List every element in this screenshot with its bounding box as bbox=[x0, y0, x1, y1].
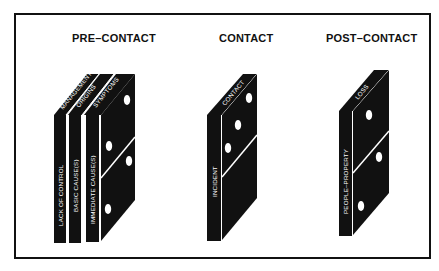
label-basic-causes: BASIC CAUSE(S) bbox=[72, 159, 79, 212]
label-lack-of-control: LACK OF CONTROL bbox=[57, 164, 64, 226]
pip bbox=[358, 201, 364, 211]
pip bbox=[376, 152, 382, 162]
pip bbox=[106, 141, 112, 151]
pip bbox=[366, 110, 372, 120]
pip bbox=[105, 204, 111, 214]
domino-post-contact: LOSS PEOPLE–PROPERTY bbox=[339, 70, 389, 236]
pip bbox=[235, 120, 241, 130]
pip bbox=[126, 156, 132, 166]
pip bbox=[124, 95, 130, 105]
label-people-property: PEOPLE–PROPERTY bbox=[342, 149, 349, 214]
pip bbox=[246, 93, 252, 103]
label-immediate-causes: IMMEDIATE CAUSE(S) bbox=[89, 155, 96, 224]
pip bbox=[225, 143, 231, 153]
domino-group-pre-contact: MANAGEMENT ORIGINS SYMPTOMS LACK OF CONT… bbox=[54, 70, 135, 243]
domino-contact: CONTACT INCIDENT bbox=[207, 74, 257, 241]
label-incident: INCIDENT bbox=[211, 166, 218, 197]
domino-diagram: MANAGEMENT ORIGINS SYMPTOMS LACK OF CONT… bbox=[0, 0, 439, 271]
